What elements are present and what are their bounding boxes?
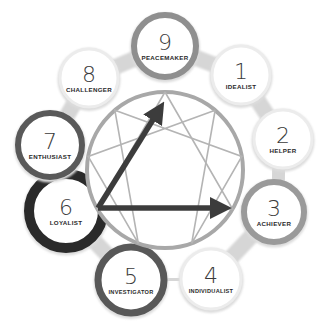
type-label: PEACEMAKER xyxy=(141,54,188,61)
type-1-bubble[interactable]: 1IDEALIST xyxy=(210,45,273,108)
type-number: 4 xyxy=(204,263,218,288)
type-number: 9 xyxy=(158,30,172,55)
type-number: 3 xyxy=(267,196,281,221)
type-label: INDIVIDUALIST xyxy=(189,288,234,294)
type-2-bubble[interactable]: 2HELPER xyxy=(252,109,315,172)
type-number: 8 xyxy=(82,62,96,87)
type-label: ACHIEVER xyxy=(257,220,292,227)
type-number: 5 xyxy=(124,264,138,289)
enneagram-core xyxy=(87,92,243,248)
type-number: 1 xyxy=(234,59,248,84)
type-number: 6 xyxy=(59,195,73,220)
type-3-bubble[interactable]: 3ACHIEVER xyxy=(240,180,308,248)
enneagram-diagram: 9PEACEMAKER1IDEALIST2HELPER3ACHIEVER4IND… xyxy=(0,0,332,328)
type-4-bubble[interactable]: 4INDIVIDUALIST xyxy=(179,248,244,313)
type-number: 7 xyxy=(43,129,57,154)
type-label: CHALLENGER xyxy=(66,86,112,93)
type-label: HELPER xyxy=(270,147,297,154)
type-label: ENTHUSIAST xyxy=(29,153,72,160)
type-number: 2 xyxy=(276,123,290,148)
type-9-bubble[interactable]: 9PEACEMAKER xyxy=(130,13,200,83)
type-5-bubble[interactable]: 5INVESTIGATOR xyxy=(94,244,169,319)
type-label: IDEALIST xyxy=(226,83,257,90)
type-7-bubble[interactable]: 7ENTHUSIAST xyxy=(14,111,86,183)
type-8-bubble[interactable]: 8CHALLENGER xyxy=(58,48,121,111)
type-label: INVESTIGATOR xyxy=(108,289,153,295)
outer-ring xyxy=(87,92,243,248)
type-label: LOYALIST xyxy=(50,219,82,226)
